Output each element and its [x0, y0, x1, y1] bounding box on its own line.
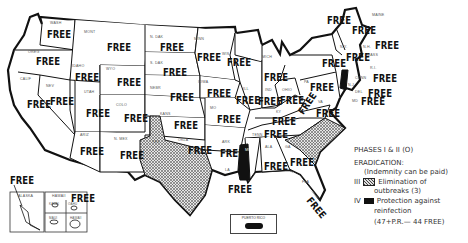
label-kans: KANS	[160, 112, 171, 116]
legend-phase4: IVProtection against	[354, 197, 468, 207]
free-vt: FREE	[327, 15, 351, 26]
puerto-rico-phase4	[245, 223, 263, 229]
label-ala: ALA	[265, 145, 272, 149]
free-colo: FREE	[124, 113, 148, 124]
free-iowa: FREE	[207, 88, 231, 99]
label-maine: MAINE	[372, 13, 384, 17]
label-nj: N.J.	[348, 83, 355, 87]
free-mich: FREE	[264, 72, 288, 83]
label-calif: CALIF	[20, 77, 31, 81]
label-conn: CONN	[355, 76, 366, 80]
free-ala: FREE	[264, 161, 288, 172]
free-mont: FREE	[107, 42, 131, 53]
free-nev: FREE	[50, 96, 74, 107]
legend: PHASES I & II (O) ERADICATION: (Indemnit…	[354, 146, 468, 228]
free-wyo: FREE	[117, 77, 141, 88]
label-pa: PA	[304, 80, 309, 84]
free-kans: FREE	[174, 120, 198, 131]
free-okla: FREE	[188, 145, 212, 156]
free-minn: FREE	[197, 52, 221, 63]
label-ind: IND	[265, 88, 272, 92]
free-tenn: FREE	[264, 129, 288, 140]
free-ind: FREE	[258, 96, 282, 107]
free-la: FREE	[228, 184, 252, 195]
free-ill: FREE	[236, 95, 260, 106]
label-ark: ARK	[222, 140, 230, 144]
free-nmex: FREE	[120, 150, 144, 161]
label-colo: COLO	[116, 103, 127, 107]
label-ill: ILL	[243, 87, 249, 91]
label-mich: MICH	[262, 55, 272, 59]
label-nmex: N. MEX	[114, 137, 128, 141]
legend-phase3-cont: outbreaks (3)	[354, 187, 468, 197]
legend-summary: (47+P.R.— 44 FREE)	[354, 218, 468, 228]
phase4-text: Protection against	[377, 197, 440, 205]
free-va: FREE	[316, 108, 340, 119]
label-miss: MISS	[245, 148, 255, 152]
free-conn: FREE	[373, 73, 397, 84]
label-fla: FLA	[302, 180, 309, 184]
label-la: LA	[225, 168, 230, 172]
phase4-numeral: IV	[354, 197, 361, 205]
free-sdak: FREE	[163, 67, 187, 78]
label-ndak: N. DAK	[150, 35, 163, 39]
phase3-text: Elimination of	[378, 178, 426, 186]
free-wis: FREE	[227, 57, 251, 68]
legend-eradication: ERADICATION:	[354, 159, 468, 169]
free-wash: FREE	[47, 29, 71, 40]
label-ariz: ARIZ	[80, 133, 89, 137]
free-pa: FREE	[310, 82, 334, 93]
label-idaho: IDAHO	[72, 64, 84, 68]
label-ohio: OHIO	[282, 88, 292, 92]
phase3-numeral: III	[354, 178, 360, 186]
label-minn: MINN	[194, 37, 204, 41]
free-nh: FREE	[375, 40, 399, 51]
puerto-rico-inset: PUERTO RICO	[230, 214, 277, 234]
label-wash: WASH	[50, 21, 61, 25]
label-nh: N.H.	[363, 45, 371, 49]
solid-swatch-icon	[364, 198, 374, 204]
free-maine: FREE	[352, 25, 376, 36]
free-nebr: FREE	[170, 92, 194, 103]
label-mont: MONT	[84, 30, 95, 34]
free-alaska: FREE	[10, 175, 34, 186]
label-wis: WIS	[222, 52, 229, 56]
label-mass: MASS	[367, 53, 378, 57]
label-ri: R.I.	[370, 66, 376, 70]
free-oreg: FREE	[36, 56, 60, 67]
label-nebr: NEBR	[150, 86, 161, 90]
nj-phase4	[340, 70, 348, 90]
free-md: FREE	[361, 96, 385, 107]
free-ark: FREE	[220, 148, 244, 159]
legend-phase4-cont: reinfection	[354, 207, 468, 217]
label-maui: MAUI	[49, 216, 57, 220]
free-idaho: FREE	[75, 72, 99, 83]
label-ky: KY	[276, 110, 281, 114]
free-ndak: FREE	[160, 42, 184, 53]
label-hawaii: HAWAII	[52, 194, 66, 198]
label-ga: GA	[285, 145, 291, 149]
label-va: VA	[318, 100, 323, 104]
label-del: DEL	[355, 90, 363, 94]
puerto-rico-label: PUERTO RICO	[231, 216, 276, 220]
label-alaska: ALASKA	[18, 194, 33, 198]
free-ky: FREE	[272, 116, 296, 127]
free-calif: FREE	[27, 99, 51, 110]
label-nev: NEV	[46, 84, 54, 88]
label-hawaii-island: HAWAII	[70, 216, 82, 220]
label-ny: N.Y.	[340, 45, 347, 49]
legend-phases-1-2: PHASES I & II (O)	[354, 146, 468, 156]
label-sdak: S. DAK	[150, 61, 163, 65]
label-tenn: TENN	[252, 133, 263, 137]
label-wyo: WYO	[106, 67, 115, 71]
free-ny: FREE	[322, 58, 346, 69]
label-iowa: IOWA	[198, 80, 208, 84]
label-tex: TEX	[152, 140, 160, 144]
free-mo: FREE	[217, 114, 241, 125]
free-utah: FREE	[86, 108, 110, 119]
label-oreg: OREG	[28, 50, 39, 54]
label-mo: MO	[210, 106, 216, 110]
label-oahu: OAHU	[68, 202, 77, 206]
label-utah: UTAH	[84, 90, 94, 94]
label-kauai: KAUAI	[49, 202, 59, 206]
